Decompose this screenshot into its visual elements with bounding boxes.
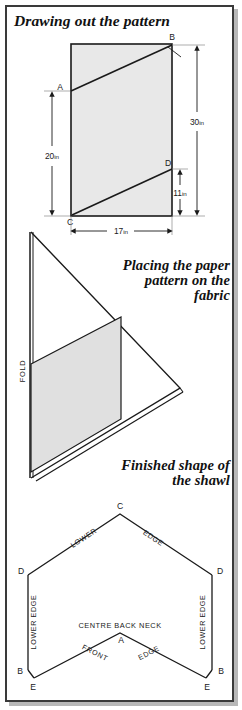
point-label-a: A (57, 82, 63, 92)
point-label-c: C (67, 217, 73, 227)
shawl-label-lower-upper-left: LOWER (69, 526, 98, 550)
diagram-canvas: A B C D 20in 30in 11in (0, 0, 242, 710)
dimension-label-11in: 11in (173, 188, 187, 198)
shawl-label-front-edge: EDGE (137, 644, 161, 662)
shawl-label-centre-back-neck: CENTRE BACK NECK (78, 621, 161, 630)
shawl-right-corner-jog (206, 670, 212, 678)
point-label-b: B (169, 32, 175, 42)
shawl-left-corner-jog (28, 670, 34, 678)
shawl-point-label-d-right: D (217, 566, 223, 576)
dimension-label-30in: 30in (190, 117, 205, 127)
diagram-placing-on-fabric: FOLD (18, 232, 183, 481)
pattern-rectangle (71, 44, 172, 216)
shawl-point-label-b-left: B (17, 666, 23, 676)
fold-label: FOLD (18, 360, 27, 383)
shawl-label-lower-edge-left: LOWER EDGE (29, 595, 38, 650)
point-label-d: D (165, 158, 171, 168)
paper-pattern-shape (31, 317, 121, 472)
diagram-drawing-out-the-pattern: A B C D 20in 30in 11in (44, 32, 205, 236)
shawl-point-label-d-left: D (18, 566, 24, 576)
shawl-point-label-c: C (117, 501, 123, 511)
shawl-label-lower-edge-right: LOWER EDGE (198, 595, 207, 650)
dimension-label-17in: 17in (114, 226, 129, 236)
shawl-point-label-b-right: B (218, 666, 224, 676)
dimension-label-20in: 20in (45, 151, 60, 161)
diagram-finished-shawl: C D D B B E E A LOWER EDGE LOWER EDGE LO… (17, 501, 224, 692)
fabric-triangle-apex-connector (180, 388, 183, 392)
shawl-point-label-a-neck: A (118, 635, 124, 645)
shawl-point-label-e-right: E (204, 682, 210, 692)
shawl-upper-edge (28, 514, 212, 575)
shawl-point-label-e-left: E (30, 682, 36, 692)
shawl-label-edge-upper-right: EDGE (141, 528, 165, 548)
pattern-instruction-page: Drawing out the pattern Placing the pape… (0, 0, 242, 710)
